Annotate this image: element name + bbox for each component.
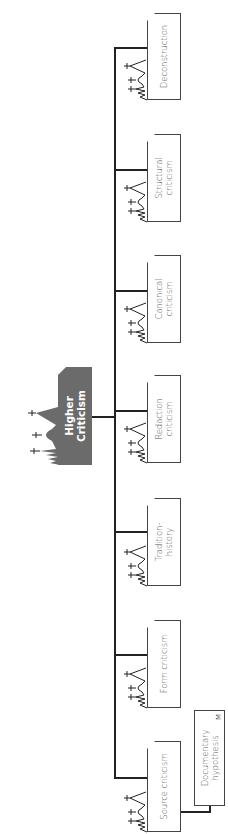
node-redaction-criticism[interactable]: Redaction criticism: [147, 375, 181, 463]
diagram-canvas: Higher Criticism Source criticism Form c…: [0, 0, 228, 834]
node-tradition-history[interactable]: Tradition- history: [147, 498, 181, 586]
node-label: Structural criticism: [154, 157, 174, 198]
node-label: Documentary hypothesis: [200, 730, 220, 787]
skyline-icon: [124, 182, 148, 222]
node-form-criticism[interactable]: Form criticism: [147, 620, 181, 708]
node-label: Tradition- history: [154, 523, 174, 562]
sub-connector-v: [209, 805, 211, 813]
skyline-icon: [124, 792, 148, 832]
skyline-icon: [124, 546, 148, 586]
node-label: Canonical criticism: [154, 279, 174, 320]
node-source-criticism[interactable]: Source criticism: [147, 741, 181, 832]
connector-form: [114, 655, 147, 657]
node-deconstruction[interactable]: Deconstruction: [147, 13, 181, 100]
node-label: Deconstruction: [159, 25, 169, 88]
connector-deconstruction: [114, 48, 147, 50]
connector-source: [114, 778, 147, 780]
node-label: Form criticism: [159, 635, 169, 694]
root-node-higher-criticism[interactable]: Higher Criticism: [58, 367, 92, 465]
node-documentary-hypothesis[interactable]: Documentary hypothesis: [194, 710, 225, 806]
root-connector: [92, 417, 115, 419]
skyline-icon: [124, 303, 148, 343]
root-label: Higher Criticism: [63, 390, 87, 442]
connector-canonical: [114, 291, 147, 293]
skyline-icon: [124, 423, 148, 463]
trunk-line: [114, 48, 116, 779]
skyline-icon: [124, 60, 148, 100]
connector-redaction: [114, 411, 147, 413]
skyline-icon: [124, 668, 148, 708]
node-canonical-criticism[interactable]: Canonical criticism: [147, 255, 181, 343]
sub-connector-h: [181, 812, 210, 814]
connector-tradition: [114, 532, 147, 534]
connector-structural: [114, 170, 147, 172]
marker-icon: M: [215, 714, 223, 720]
node-label: Redaction criticism: [154, 398, 174, 439]
skyline-icon: [36, 367, 60, 465]
node-label: Source criticism: [159, 753, 169, 819]
node-structural-criticism[interactable]: Structural criticism: [147, 134, 181, 222]
